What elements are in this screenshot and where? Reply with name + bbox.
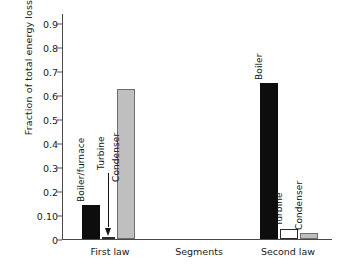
y-tick-label-07: 0.7 [2,67,58,78]
y-tick-label-09: 0.9 [2,19,58,30]
y-tick-label-02: 0.2 [2,187,58,198]
bar-label-first-law-condenser: Condenser [111,133,121,182]
bar-second-law-condenser[interactable] [300,233,318,239]
x-axis-spine [62,239,332,240]
y-axis-spine [62,14,63,240]
x-axis-title: Segments [175,246,223,257]
bar-label-first-law-turbine: Turbine [96,136,106,170]
y-tick-label-0: 0 [2,235,58,246]
x-category-first-law: First law [90,246,129,257]
y-axis-tick-labels: 0 0.10 0.2 0.3 0.4 0.5 0.6 0.7 0.8 0.9 [0,0,58,270]
bar-label-first-law-boiler-furnace: Boiler/furnace [76,138,86,202]
down-arrow-icon [105,173,113,235]
bar-label-second-law-turbine: Turbine [274,192,284,226]
x-category-second-law: Second law [261,246,315,257]
y-tick-label-010: 0.10 [2,211,58,222]
bar-first-law-boiler-furnace[interactable] [82,205,100,239]
bar-second-law-turbine[interactable] [280,229,298,239]
bar-label-second-law-boiler: Boiler [254,53,264,80]
bar-label-second-law-condenser: Condenser [294,181,304,230]
bar-first-law-turbine[interactable] [102,237,115,239]
energy-loss-bar-chart: Fraction of total energy loss 0 0.10 0.2… [0,0,338,270]
y-tick-label-03: 0.3 [2,163,58,174]
plot-area: Boiler/furnace Turbine Condenser Boiler … [62,14,332,240]
y-tick-label-05: 0.5 [2,115,58,126]
y-tick-label-04: 0.4 [2,139,58,150]
y-tick-label-08: 0.8 [2,43,58,54]
y-tick-label-06: 0.6 [2,91,58,102]
